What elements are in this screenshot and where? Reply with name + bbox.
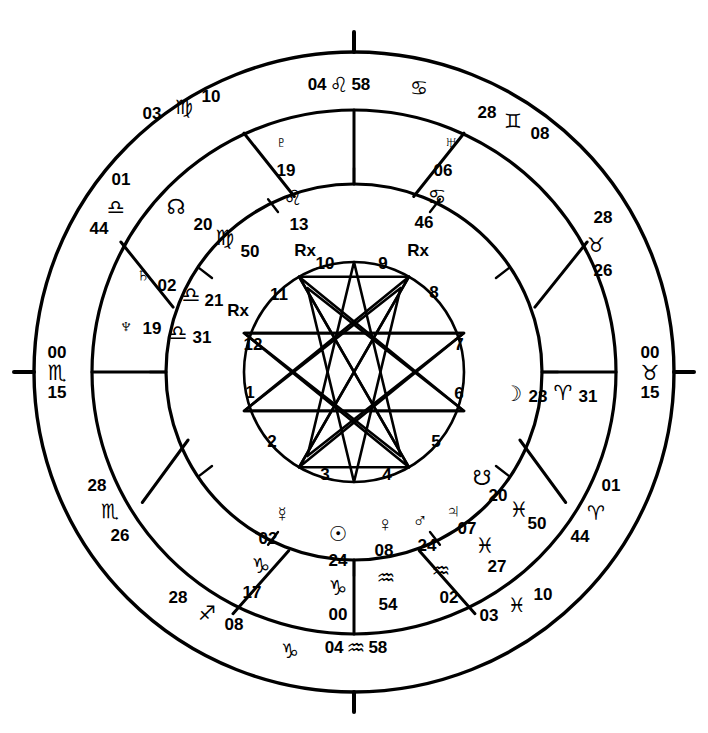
horoscope-wheel — [0, 0, 708, 733]
